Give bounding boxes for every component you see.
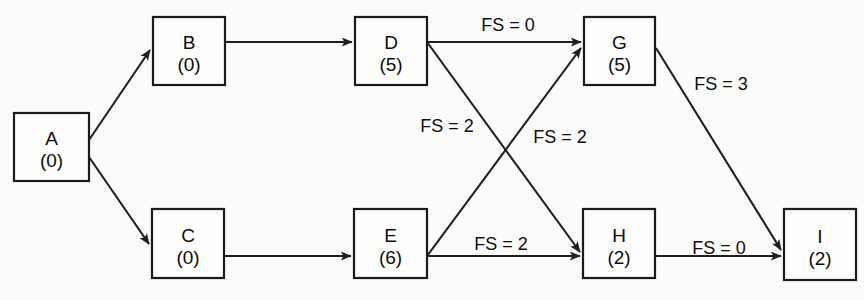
node-duration-g: (5) bbox=[608, 54, 631, 75]
node-label-e: E bbox=[384, 225, 397, 246]
node-d[interactable]: D(5) bbox=[355, 17, 427, 85]
edge-e-g bbox=[427, 48, 581, 256]
node-label-g: G bbox=[612, 32, 627, 53]
edge-label-g-i: FS = 3 bbox=[694, 74, 748, 94]
edge-d-h bbox=[427, 42, 580, 252]
node-c[interactable]: C(0) bbox=[152, 209, 224, 278]
edge-a-c bbox=[89, 157, 149, 244]
edge-label-h-i: FS = 0 bbox=[692, 238, 746, 258]
edge-label-d-g: FS = 0 bbox=[481, 15, 535, 35]
node-g[interactable]: G(5) bbox=[584, 17, 655, 85]
node-label-a: A bbox=[45, 128, 58, 149]
node-label-b: B bbox=[183, 32, 196, 53]
node-label-i: I bbox=[817, 226, 822, 247]
node-duration-h: (2) bbox=[607, 247, 630, 268]
edge-label-e-h: FS = 2 bbox=[474, 234, 528, 254]
node-b[interactable]: B(0) bbox=[153, 17, 225, 85]
node-label-d: D bbox=[384, 32, 398, 53]
node-label-c: C bbox=[181, 225, 195, 246]
node-a[interactable]: A(0) bbox=[14, 113, 89, 181]
edge-a-b bbox=[89, 50, 150, 140]
edge-label-e-g: FS = 2 bbox=[533, 127, 587, 147]
node-duration-c: (0) bbox=[176, 247, 199, 268]
network-diagram: A(0)B(0)C(0)D(5)E(6)G(5)H(2)I(2) FS = 0F… bbox=[0, 0, 864, 300]
edge-label-d-h: FS = 2 bbox=[420, 116, 474, 136]
node-duration-b: (0) bbox=[177, 54, 200, 75]
node-label-h: H bbox=[612, 225, 626, 246]
node-h[interactable]: H(2) bbox=[583, 209, 655, 278]
diagram-canvas: A(0)B(0)C(0)D(5)E(6)G(5)H(2)I(2) FS = 0F… bbox=[0, 0, 864, 300]
node-duration-a: (0) bbox=[40, 150, 63, 171]
node-duration-e: (6) bbox=[379, 247, 402, 268]
node-duration-i: (2) bbox=[808, 248, 831, 269]
node-i[interactable]: I(2) bbox=[784, 209, 856, 280]
node-e[interactable]: E(6) bbox=[354, 209, 427, 278]
node-duration-d: (5) bbox=[379, 54, 402, 75]
